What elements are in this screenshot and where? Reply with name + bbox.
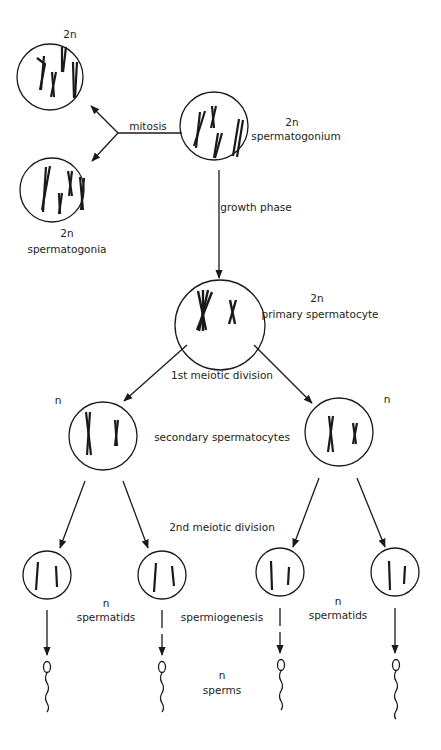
primary-spermatocyte-cell: [175, 280, 265, 370]
ploidy-sperms: n: [219, 669, 226, 681]
daughter-cell-bottom: [20, 158, 84, 222]
ploidy-secondary-right: n: [384, 393, 391, 405]
ploidy-spermatogonium: 2n: [285, 116, 298, 128]
spermiogenesis-label: spermiogenesis: [181, 611, 263, 623]
first-meiotic-division-label: 1st meiotic division: [171, 369, 273, 381]
secondary-spermatocyte-right: [305, 398, 373, 466]
ploidy-secondary-left: n: [55, 394, 62, 406]
ploidy-spermatids-left: n: [103, 597, 110, 609]
growth-phase-label: growth phase: [220, 201, 292, 213]
daughter-cell-top: [17, 44, 83, 110]
spermatid-1: [23, 551, 71, 599]
secondary-spermatocyte-left: [69, 402, 137, 470]
sperm-2: [159, 662, 166, 713]
sperm-1: [44, 662, 51, 713]
mitosis-label: mitosis: [129, 120, 167, 132]
spermatogonium-cell: [180, 92, 248, 160]
second-meiotic-division-label: 2nd meiotic division: [169, 521, 275, 533]
ploidy-primary-spermatocyte: 2n: [310, 292, 323, 304]
ploidy-top-daughter: 2n: [63, 28, 76, 40]
mitosis-arrows: [91, 106, 182, 161]
sperm-4: [393, 660, 400, 720]
spermatids-left-label: spermatids: [77, 611, 136, 623]
spermatids-right-label: spermatids: [309, 609, 368, 621]
spermatid-4: [371, 548, 419, 596]
secondary-spermatocytes-label: secondary spermatocytes: [154, 431, 290, 443]
sperms-label: sperms: [203, 684, 241, 696]
spermatogonium-label: spermatogonium: [251, 130, 340, 142]
ploidy-spermatogonia: 2n: [60, 227, 73, 239]
primary-spermatocyte-label: primary spermatocyte: [262, 308, 379, 320]
spermatogonia-label: spermatogonia: [27, 243, 106, 255]
ploidy-spermatids-right: n: [335, 595, 342, 607]
spermatid-3: [256, 548, 304, 596]
spermatid-2: [138, 551, 186, 599]
sperm-3: [278, 660, 285, 711]
